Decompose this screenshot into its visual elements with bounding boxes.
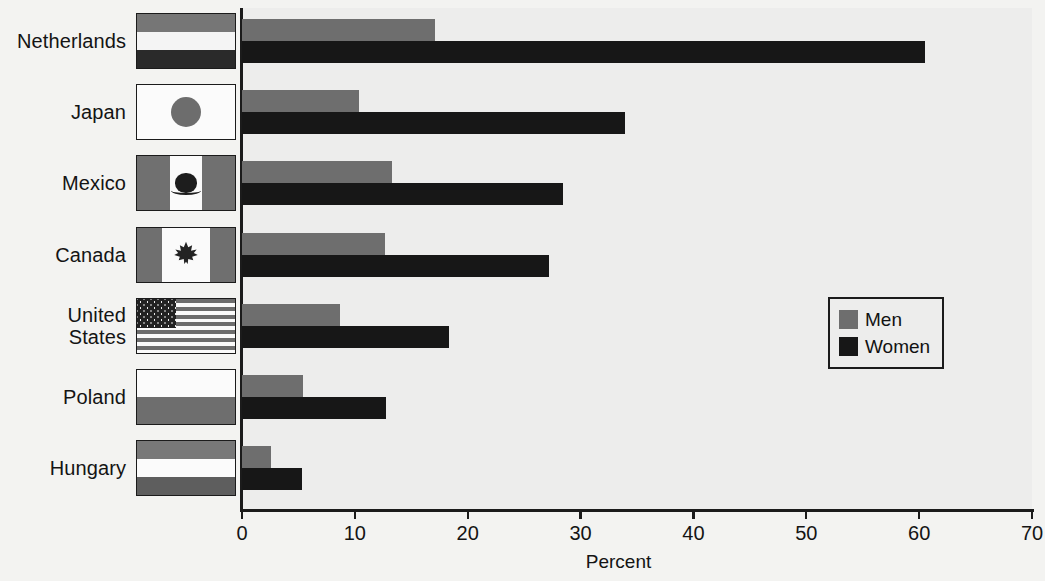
x-tick-20 [467,509,469,519]
bar-netherlands-women [242,41,925,63]
bar-netherlands-men [242,19,435,41]
bar-poland-men [242,375,303,397]
x-tick-30 [579,509,581,519]
category-label-text: Mexico [62,172,136,194]
x-tick-label-0: 0 [236,521,247,545]
category-row-netherlands: Netherlands [0,11,236,71]
bar-japan-women [242,112,625,134]
category-label-text: Japan [71,101,136,123]
category-label-text: Netherlands [17,30,136,52]
bar-united-states-women [242,326,449,348]
canada-flag [136,227,236,283]
japan-flag [136,84,236,140]
x-tick-label-30: 30 [569,521,591,545]
x-axis-title: Percent [0,551,1045,573]
x-tick-label-70: 70 [1021,521,1043,545]
x-axis-line [240,509,1034,512]
x-tick-70 [1031,509,1033,519]
poland-flag [136,369,236,425]
x-tick-50 [805,509,807,519]
netherlands-flag [136,13,236,69]
category-row-japan: Japan [0,82,236,142]
bar-mexico-men [242,161,392,183]
x-tick-0 [241,509,243,519]
bar-mexico-women [242,183,563,205]
united-states-flag [136,298,236,354]
bar-united-states-men [242,304,340,326]
category-row-united-states: United States [0,296,236,356]
category-row-canada: Canada [0,225,236,285]
legend-swatch-women [839,337,858,356]
category-row-hungary: Hungary [0,438,236,498]
japan-sun-disc [171,97,201,127]
bar-hungary-men [242,446,271,468]
category-row-mexico: Mexico [0,153,236,213]
x-tick-60 [918,509,920,519]
legend-entry-men: Men [839,306,942,333]
bar-japan-men [242,90,359,112]
maple-leaf-icon [172,237,200,271]
x-tick-40 [692,509,694,519]
x-tick-label-40: 40 [682,521,704,545]
bar-canada-women [242,255,549,277]
legend-swatch-men [839,310,858,329]
us-canton-stars [137,299,176,328]
x-tick-label-60: 60 [908,521,930,545]
legend-entry-women: Women [839,333,942,360]
legend-label-women: Women [865,337,930,357]
category-label-text: United States [68,304,136,348]
legend-label-men: Men [865,310,902,330]
horizontal-bar-chart: 010203040506070 NetherlandsJapanMexicoCa… [0,0,1045,581]
x-tick-label-50: 50 [795,521,817,545]
category-label-text: Poland [63,386,136,408]
chart-legend: Men Women [828,297,944,369]
x-tick-10 [354,509,356,519]
bar-poland-women [242,397,386,419]
bar-canada-men [242,233,385,255]
mexico-flag [136,155,236,211]
x-tick-label-10: 10 [344,521,366,545]
category-row-poland: Poland [0,367,236,427]
category-label-text: Canada [55,244,136,266]
mexico-eagle-emblem [175,173,197,193]
x-tick-label-20: 20 [457,521,479,545]
x-axis-title-text: Percent [586,551,651,572]
hungary-flag [136,440,236,496]
bar-hungary-women [242,468,302,490]
category-label-text: Hungary [50,457,136,479]
